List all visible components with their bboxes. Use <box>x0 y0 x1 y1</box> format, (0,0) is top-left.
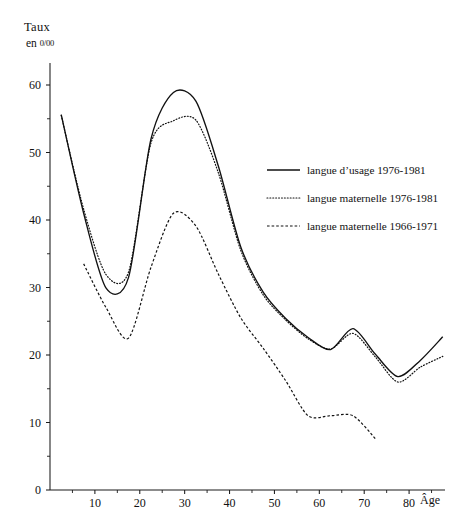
x-tick-label: 10 <box>89 496 101 510</box>
legend-label: langue maternelle 1966-1971 <box>307 220 438 232</box>
x-tick-label: 60 <box>313 496 325 510</box>
x-axis-tick-labels: 1020304050607080 <box>89 496 415 510</box>
legend-item-2: langue maternelle 1976-1981 <box>267 192 438 204</box>
legend-item-3: langue maternelle 1966-1971 <box>267 220 438 232</box>
y-tick-label: 60 <box>29 78 41 92</box>
legend-item-1: langue d’usage 1976-1981 <box>267 164 426 176</box>
y-axis-subtitle-prefix: en <box>26 37 37 49</box>
x-tick-label: 40 <box>224 496 236 510</box>
y-tick-label: 30 <box>29 281 41 295</box>
y-tick-label: 10 <box>29 416 41 430</box>
series-line-3 <box>84 212 376 439</box>
data-series-group <box>61 90 443 439</box>
y-tick-label: 0 <box>35 483 41 497</box>
x-tick-label: 30 <box>179 496 191 510</box>
chart-figure: Taux en 0/00 0102030405060 1020304050607… <box>0 0 472 529</box>
legend-label: langue d’usage 1976-1981 <box>307 164 426 176</box>
y-axis-title: Taux <box>24 20 50 35</box>
x-tick-label: 20 <box>134 496 146 510</box>
y-tick-label: 20 <box>29 348 41 362</box>
y-tick-label: 50 <box>29 146 41 160</box>
y-axis-subtitle-unit: 0/00 <box>40 38 54 48</box>
x-tick-label: 50 <box>268 496 280 510</box>
x-tick-label: 80 <box>403 496 415 510</box>
series-line-2 <box>61 115 443 382</box>
y-tick-label: 40 <box>29 213 41 227</box>
x-axis-label: Âge <box>420 493 440 507</box>
x-tick-label: 70 <box>358 496 370 510</box>
chart-legend: langue d’usage 1976-1981langue maternell… <box>267 164 438 232</box>
legend-label: langue maternelle 1976-1981 <box>307 192 438 204</box>
y-axis-tick-labels: 0102030405060 <box>29 78 41 497</box>
y-axis-subtitle: en 0/00 <box>26 37 54 49</box>
x-axis-ticks <box>72 490 431 494</box>
line-chart-plot: 0102030405060 1020304050607080 Âge langu… <box>0 0 472 529</box>
y-axis-ticks <box>46 85 50 490</box>
